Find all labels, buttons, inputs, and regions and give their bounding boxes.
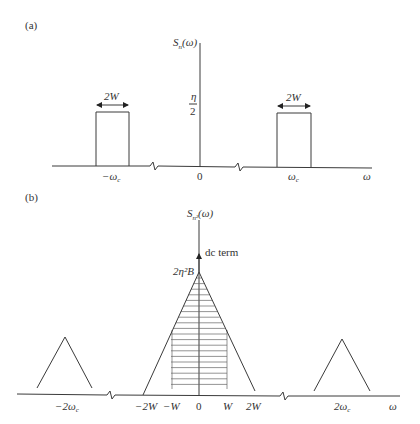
panel-b-break-left — [107, 391, 280, 399]
panel-a-tick-pos-wc: ωc — [288, 170, 300, 184]
panel-b-tick-zero: 0 — [196, 400, 202, 412]
panel-b-y-axis-label: Sn²(ω) — [187, 207, 214, 222]
panel-b-triangle-neg — [37, 337, 92, 388]
panel-b-tick-neg-w: −W — [163, 400, 180, 412]
panel-b-tick-neg-2wc: −2ωc — [55, 400, 80, 414]
panel-a-break-right — [235, 163, 372, 171]
panel-b-tick-pos-2wc: 2ωc — [334, 400, 351, 414]
panel-b-label: (b) — [25, 191, 38, 204]
panel-a: (a) Sn(ω) η 2 2W 2W −ωc 0 ωc ω — [25, 19, 372, 184]
panel-b-baseline-left — [17, 394, 107, 395]
panel-a-break-left — [150, 162, 235, 170]
panel-b-peak-label: 2η²B — [173, 265, 194, 277]
panel-a-axis-label: ω — [363, 170, 371, 182]
panel-a-tick-zero: 0 — [197, 170, 203, 182]
panel-b-tick-pos-w: W — [223, 400, 233, 412]
panel-a-width-label-left: 2W — [104, 90, 120, 102]
panel-b-triangle-pos — [314, 339, 370, 391]
spectrum-diagram: (a) Sn(ω) η 2 2W 2W −ωc 0 ωc ω (b) — [0, 0, 420, 424]
panel-b-tick-pos-2w: 2W — [246, 400, 262, 412]
panel-a-level-numerator: η — [191, 90, 196, 102]
panel-b-break-right — [280, 392, 400, 400]
panel-a-tick-neg-wc: −ωc — [102, 170, 121, 184]
panel-a-band-pos — [277, 113, 311, 167]
panel-b-axis-label: ω — [389, 400, 397, 412]
panel-b-dc-label: dc term — [205, 246, 239, 258]
panel-b: (b) Sn²(ω) dc term 2η²B −2ωc −2W −W 0 W … — [17, 191, 400, 414]
panel-a-level-denominator: 2 — [190, 105, 196, 117]
panel-b-tick-neg-2w: −2W — [135, 400, 158, 412]
panel-a-band-neg — [96, 112, 129, 166]
panel-a-y-axis-label: Sn(ω) — [173, 36, 197, 51]
panel-a-width-label-right: 2W — [286, 91, 302, 103]
panel-a-label: (a) — [25, 19, 38, 32]
